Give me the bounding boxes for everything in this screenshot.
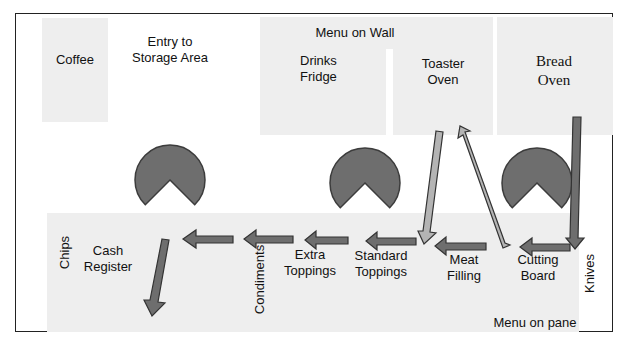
arrow-toaster-down bbox=[418, 131, 443, 244]
worker-icon-right bbox=[502, 148, 572, 208]
worker-icon-left bbox=[135, 145, 205, 205]
arrow-extra-left bbox=[305, 231, 348, 249]
worker-icon-middle bbox=[330, 148, 400, 208]
flow-overlay bbox=[0, 0, 629, 345]
arrow-cash-out bbox=[144, 239, 169, 316]
arrow-standard-left bbox=[366, 232, 416, 250]
arrow-cutting-left bbox=[520, 238, 570, 256]
arrow-to-cash-left bbox=[183, 230, 233, 248]
arrow-meat-left bbox=[435, 237, 486, 255]
arrow-condiments-left bbox=[244, 230, 293, 248]
